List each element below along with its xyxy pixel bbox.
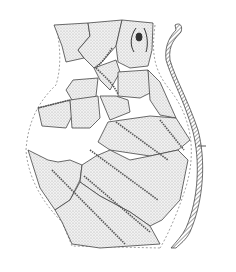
pottery-drawing bbox=[0, 0, 236, 272]
